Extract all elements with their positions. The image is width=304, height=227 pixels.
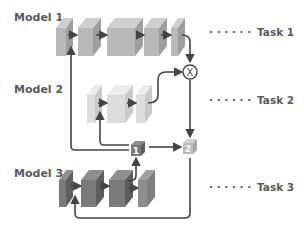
multiply-icon: X [187, 67, 194, 78]
model-1-layer-2 [78, 18, 101, 56]
model-2-label: Model 2 [14, 83, 63, 96]
model-3-layer-4 [138, 170, 155, 207]
task-3-dots: · · · · · · [209, 181, 251, 193]
shared-box-2: 2 [183, 139, 197, 154]
model-2-layers [87, 85, 152, 123]
box-1-label: 1 [133, 146, 139, 156]
task-1-dots: · · · · · · [209, 26, 251, 38]
multiply-node: X [183, 65, 197, 79]
box-2-label: 2 [185, 144, 191, 154]
shared-box-1: 1 [131, 141, 145, 156]
model-3-layer-2 [81, 170, 104, 207]
task-2-dots: · · · · · · [209, 94, 251, 106]
task-2-label: Task 2 [257, 94, 294, 106]
model-2-layer-3 [136, 85, 152, 123]
model-3-label: Model 3 [14, 167, 63, 180]
task-3-label: Task 3 [257, 181, 294, 193]
model-1-layer-3 [107, 18, 143, 56]
task-1-label: Task 1 [257, 26, 294, 38]
model-3-layers [59, 170, 155, 207]
model-1-layers [56, 18, 185, 56]
model-1-label: Model 1 [14, 11, 63, 24]
multi-task-diagram: Model 1 Model 2 Model 3 · · · · · · Task… [0, 0, 304, 227]
model-2-layer-2 [107, 85, 133, 123]
model-1-layer-5 [171, 18, 185, 56]
model-1-layer-4 [144, 18, 167, 56]
